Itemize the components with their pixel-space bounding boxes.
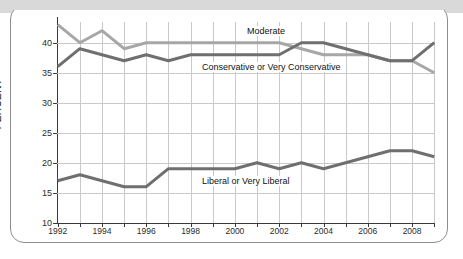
chart-page: 10152025303540 1992199419961998200020022…: [0, 0, 463, 259]
series-inline-label: Liberal or Very Liberal: [200, 176, 292, 186]
series-inline-label: Moderate: [245, 26, 287, 36]
series-inline-label: Conservative or Very Conservative: [200, 62, 343, 72]
series-lines: [0, 0, 463, 259]
